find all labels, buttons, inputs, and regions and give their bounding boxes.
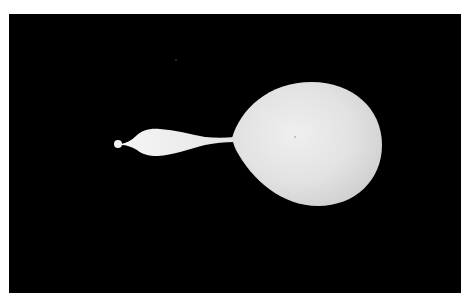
bulb-speck <box>294 136 296 138</box>
dust-speck <box>175 59 177 61</box>
droplet-illustration <box>0 0 471 301</box>
satellite-droplet <box>114 140 122 148</box>
droplet-tail <box>121 129 234 156</box>
droplet-bulb <box>232 82 382 206</box>
